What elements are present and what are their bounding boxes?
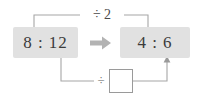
bottom-operation-symbol: ÷ <box>94 72 108 88</box>
right-ratio-box: 4 : 6 <box>120 27 190 58</box>
left-ratio-box: 8 : 12 <box>13 27 78 58</box>
right-ratio-label: 4 : 6 <box>137 34 172 51</box>
transform-arrow-icon <box>90 36 112 50</box>
top-operation-label: ÷ 2 <box>80 7 124 23</box>
bottom-right-connector-path <box>133 62 167 81</box>
ratio-diagram-canvas: 8 : 12 4 : 6 ÷ 2 ÷ <box>0 0 204 102</box>
missing-divisor-input-box[interactable] <box>109 69 133 93</box>
left-ratio-label: 8 : 12 <box>23 34 68 51</box>
bottom-left-connector-path <box>61 56 94 81</box>
